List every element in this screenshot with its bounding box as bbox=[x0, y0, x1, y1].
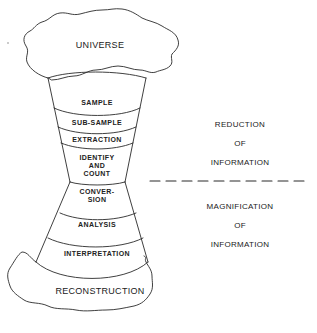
universe-label: UNIVERSE bbox=[70, 41, 130, 49]
reduction-annotation: REDUCTION OF INFORMATION bbox=[200, 115, 280, 172]
reduction-line-1: REDUCTION bbox=[200, 115, 280, 134]
magnification-line-3: INFORMATION bbox=[198, 235, 282, 254]
reconstruction-label: RECONSTRUCTION bbox=[50, 287, 150, 295]
reduction-line-3: INFORMATION bbox=[200, 153, 280, 172]
stage-identify-line-2: AND bbox=[67, 162, 127, 170]
reconstruction-cloud bbox=[8, 252, 153, 311]
reduction-line-2: OF bbox=[200, 134, 280, 153]
magnification-line-2: OF bbox=[198, 216, 282, 235]
stage-sample: SAMPLE bbox=[67, 99, 127, 107]
magnification-line-1: MAGNIFICATION bbox=[198, 197, 282, 216]
stage-analysis: ANALYSIS bbox=[67, 221, 127, 229]
stage-identify-and-count: IDENTIFY AND COUNT bbox=[67, 154, 127, 178]
stage-conversion-line-1: CONVER- bbox=[67, 188, 127, 196]
stage-conversion: CONVER- SION bbox=[67, 188, 127, 204]
stage-sub-sample: SUB-SAMPLE bbox=[67, 119, 127, 127]
stage-extraction: EXTRACTION bbox=[67, 136, 127, 144]
stage-identify-line-1: IDENTIFY bbox=[67, 154, 127, 162]
magnification-annotation: MAGNIFICATION OF INFORMATION bbox=[198, 197, 282, 254]
stage-identify-line-3: COUNT bbox=[67, 170, 127, 178]
stage-conversion-line-2: SION bbox=[67, 196, 127, 204]
stage-interpretation: INTERPRETATION bbox=[57, 250, 137, 258]
